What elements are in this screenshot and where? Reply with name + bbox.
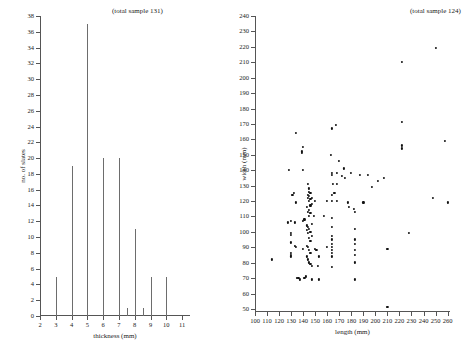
thickness-spike bbox=[151, 277, 152, 316]
y-tick bbox=[36, 190, 40, 191]
x-tick bbox=[363, 312, 364, 316]
x-tick bbox=[72, 316, 73, 320]
y-tick-label: 20 bbox=[28, 155, 35, 162]
y-tick bbox=[251, 170, 255, 171]
scatter-point bbox=[309, 192, 311, 194]
scatter-point bbox=[432, 197, 434, 199]
scatter-point bbox=[306, 229, 308, 231]
thickness-plot-area: no. of slates thickness (mm) 02468101214… bbox=[40, 16, 190, 316]
y-tick bbox=[36, 48, 40, 49]
y-tick bbox=[251, 309, 255, 310]
x-tick bbox=[387, 312, 388, 316]
y-tick-label: 0 bbox=[31, 313, 34, 320]
scatter-point bbox=[383, 177, 385, 179]
scatter-point bbox=[290, 255, 292, 257]
scatter-point bbox=[301, 152, 303, 154]
y-tick-label: 36 bbox=[28, 29, 35, 36]
x-tick bbox=[87, 316, 88, 320]
scatter-point bbox=[354, 243, 356, 245]
scatter-point bbox=[310, 279, 312, 281]
y-tick bbox=[36, 237, 40, 238]
scatter-point bbox=[308, 237, 310, 239]
y-tick bbox=[251, 31, 255, 32]
scatter-point bbox=[310, 235, 312, 237]
scatter-point bbox=[306, 255, 308, 257]
scatter-point bbox=[331, 243, 333, 245]
y-tick bbox=[251, 47, 255, 48]
scatter-point bbox=[354, 262, 356, 264]
y-tick-label: 2 bbox=[31, 297, 34, 304]
x-tick bbox=[424, 312, 425, 316]
y-tick bbox=[36, 300, 40, 301]
y-tick-label: 4 bbox=[31, 281, 34, 288]
scatter-point bbox=[444, 140, 446, 142]
scatter-point bbox=[371, 186, 373, 188]
y-tick bbox=[251, 247, 255, 248]
y-tick bbox=[36, 174, 40, 175]
x-tick-label: 120 bbox=[274, 318, 284, 325]
x-tick-label: 2 bbox=[38, 322, 41, 329]
scatter-point bbox=[290, 234, 292, 236]
x-tick-label: 140 bbox=[298, 318, 308, 325]
scatter-point bbox=[354, 211, 356, 213]
x-tick bbox=[40, 316, 41, 320]
scatter-point bbox=[308, 188, 310, 190]
scatter-point bbox=[331, 127, 333, 129]
scatter-point bbox=[309, 252, 311, 254]
y-tick-label: 200 bbox=[239, 74, 249, 81]
scatter-point bbox=[326, 246, 328, 248]
scatter-point bbox=[315, 249, 317, 251]
scatter-point bbox=[330, 154, 332, 156]
x-tick bbox=[327, 312, 328, 316]
scatter-point bbox=[309, 240, 311, 242]
x-tick bbox=[375, 312, 376, 316]
y-tick-label: 230 bbox=[239, 28, 249, 35]
scatter-point bbox=[331, 226, 333, 228]
scatter-point bbox=[331, 252, 333, 254]
scatter-point bbox=[446, 201, 448, 203]
scatter-point bbox=[288, 169, 290, 171]
thickness-spike bbox=[119, 158, 120, 316]
scatter-point bbox=[310, 197, 312, 199]
x-tick-label: 250 bbox=[431, 318, 441, 325]
y-tick bbox=[251, 155, 255, 156]
scatter-point bbox=[326, 200, 328, 202]
y-tick-label: 220 bbox=[239, 44, 249, 51]
x-tick bbox=[291, 312, 292, 316]
scatter-point bbox=[290, 242, 292, 244]
scatter-point bbox=[401, 148, 403, 150]
scatter-point bbox=[331, 194, 333, 196]
scatter-point bbox=[307, 246, 309, 248]
x-tick-label: 100 bbox=[250, 318, 260, 325]
x-tick bbox=[279, 312, 280, 316]
y-tick bbox=[251, 216, 255, 217]
scatter-point bbox=[354, 254, 356, 256]
scatter-point bbox=[309, 231, 311, 233]
scatter-point bbox=[331, 217, 333, 219]
thickness-y-axis-title: no. of slates bbox=[19, 149, 27, 183]
scatter-point bbox=[359, 174, 361, 176]
scatter-point bbox=[331, 238, 333, 240]
scatter-point bbox=[367, 174, 369, 176]
x-tick bbox=[151, 316, 152, 320]
scatter-point bbox=[302, 169, 304, 171]
y-tick-label: 120 bbox=[239, 198, 249, 205]
scatter-point bbox=[290, 220, 292, 222]
scatter-point bbox=[401, 61, 403, 63]
y-tick-label: 16 bbox=[28, 186, 35, 193]
scatter-point bbox=[331, 235, 333, 237]
y-tick bbox=[36, 284, 40, 285]
x-tick-label: 3 bbox=[54, 322, 57, 329]
x-tick bbox=[166, 316, 167, 320]
scatter-point bbox=[308, 215, 310, 217]
length-width-sample-note: (total sample 124) bbox=[410, 7, 461, 15]
scatter-point bbox=[331, 249, 333, 251]
thickness-spike bbox=[143, 308, 144, 316]
y-tick-label: 210 bbox=[239, 59, 249, 66]
scatter-point bbox=[331, 246, 333, 248]
y-tick-label: 90 bbox=[243, 244, 250, 251]
scatter-point bbox=[343, 168, 345, 170]
scatter-point bbox=[401, 121, 403, 123]
y-tick bbox=[36, 127, 40, 128]
y-tick-label: 50 bbox=[243, 306, 250, 313]
